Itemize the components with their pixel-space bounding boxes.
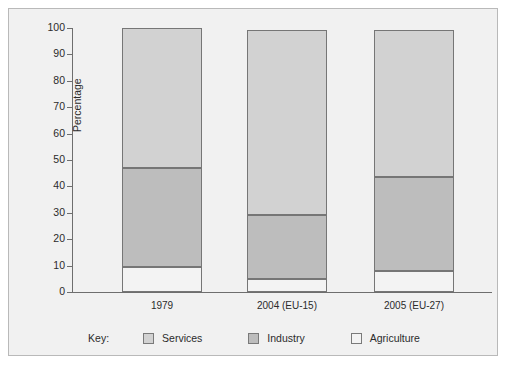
y-tick-label: 40	[53, 179, 65, 192]
segment-agriculture[interactable]	[122, 267, 202, 292]
segment-agriculture[interactable]	[247, 279, 327, 292]
y-tick-label: 60	[53, 127, 65, 140]
x-axis-label: 2004 (EU-15)	[247, 300, 327, 311]
y-axis-title: Percentage	[71, 78, 83, 132]
y-tick-mark	[67, 28, 72, 29]
legend-swatch-icon	[351, 333, 362, 344]
segment-industry[interactable]	[122, 168, 202, 267]
segment-services[interactable]	[374, 30, 454, 177]
y-tick-mark	[67, 107, 72, 108]
legend-swatch-icon	[143, 333, 154, 344]
y-tick-mark	[67, 54, 72, 55]
y-tick-label: 50	[53, 153, 65, 166]
y-tick-mark	[67, 292, 72, 293]
y-tick-label: 70	[53, 100, 65, 113]
legend-entry-services[interactable]: Services	[143, 332, 202, 344]
y-tick-mark	[67, 186, 72, 187]
segment-services[interactable]	[247, 30, 327, 215]
bar-1979[interactable]	[122, 28, 202, 292]
legend-label: Agriculture	[370, 332, 420, 344]
y-tick-label: 10	[53, 259, 65, 272]
segment-services[interactable]	[122, 28, 202, 168]
segment-industry[interactable]	[247, 215, 327, 279]
y-tick-label: 0	[59, 285, 65, 298]
y-tick-label: 90	[53, 47, 65, 60]
y-tick-mark	[67, 134, 72, 135]
x-axis-line	[72, 292, 492, 293]
stacked-bar-chart: Percentage 1009080706050403020100 197920…	[9, 9, 499, 357]
legend-entries: ServicesIndustryAgriculture	[143, 332, 420, 344]
y-tick-mark	[67, 266, 72, 267]
y-tick-mark	[67, 213, 72, 214]
x-axis-label: 2005 (EU-27)	[374, 300, 454, 311]
segment-industry[interactable]	[374, 177, 454, 271]
segment-agriculture[interactable]	[374, 271, 454, 292]
x-axis-label: 1979	[122, 300, 202, 311]
y-tick-label: 80	[53, 74, 65, 87]
y-tick-mark	[67, 81, 72, 82]
y-tick-label: 30	[53, 206, 65, 219]
bar-2004-eu-15-[interactable]	[247, 28, 327, 292]
bar-2005-eu-27-[interactable]	[374, 28, 454, 292]
y-tick-mark	[67, 239, 72, 240]
y-tick-mark	[67, 160, 72, 161]
legend-title: Key:	[88, 332, 109, 344]
y-axis-line	[72, 28, 73, 292]
chart-legend: Key: ServicesIndustryAgriculture	[9, 327, 499, 349]
legend-label: Industry	[267, 332, 304, 344]
legend-label: Services	[162, 332, 202, 344]
y-tick-label: 20	[53, 232, 65, 245]
legend-entry-agriculture[interactable]: Agriculture	[351, 332, 420, 344]
legend-swatch-icon	[248, 333, 259, 344]
legend-entry-industry[interactable]: Industry	[248, 332, 304, 344]
y-tick-label: 100	[47, 21, 65, 34]
chart-figure: Percentage 1009080706050403020100 197920…	[8, 8, 498, 356]
plot-area: Percentage 1009080706050403020100 197920…	[72, 28, 492, 292]
